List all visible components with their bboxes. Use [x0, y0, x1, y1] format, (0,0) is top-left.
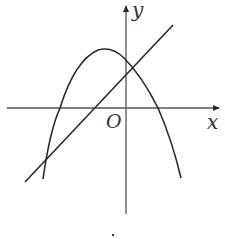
x-axis-label: x	[207, 110, 218, 134]
y-axis-label: y	[131, 0, 144, 22]
function-graph-figure: y x O	[0, 0, 225, 239]
origin-label: O	[106, 110, 122, 132]
caption-dot	[112, 234, 114, 236]
straight-line	[25, 25, 173, 182]
